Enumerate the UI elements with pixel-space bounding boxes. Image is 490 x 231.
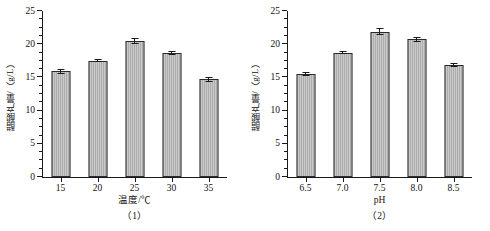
y-axis-tick-label: 10: [271, 106, 281, 116]
y-axis-tick: [282, 176, 287, 177]
x-axis-tick-label: 15: [56, 184, 66, 194]
y-axis-tick-label: 5: [275, 139, 280, 149]
bar: [444, 65, 463, 177]
x-axis-tick: [172, 178, 173, 182]
y-axis-minor-tick: [39, 101, 42, 102]
panel-caption-1: （1）: [42, 212, 227, 222]
bar: [125, 41, 144, 177]
y-axis-tick: [37, 143, 42, 144]
y-axis-tick-label: 0: [30, 172, 35, 182]
y-axis-minor-tick: [284, 126, 287, 127]
y-axis-minor-tick: [39, 159, 42, 160]
x-axis-tick: [135, 178, 136, 182]
y-axis-title-panel-1: 醋酸产量/（g/L）: [3, 11, 17, 178]
y-axis-minor-tick: [39, 52, 42, 53]
plot-area-panel-1: 05101520251520253035: [42, 11, 227, 178]
y-axis-tick: [282, 43, 287, 44]
y-axis-minor-tick: [284, 18, 287, 19]
y-axis-minor-tick: [39, 93, 42, 94]
error-bar-cap-bottom: [131, 43, 138, 44]
error-bar-cap-bottom: [57, 73, 64, 74]
chart-panel-1: 醋酸产量/（g/L） 05101520251520253035 温度/℃ （1）: [0, 0, 245, 231]
error-bar-cap-top: [413, 37, 420, 38]
chart-panel-2: 醋酸产量/（g/L） 05101520256.57.07.58.08.5 pH …: [245, 0, 490, 231]
error-bar-cap-top: [168, 51, 175, 52]
error-bar-cap-top: [339, 51, 346, 52]
y-axis-minor-tick: [284, 35, 287, 36]
x-axis-tick: [61, 178, 62, 182]
y-axis-minor-tick: [284, 27, 287, 28]
x-axis-title-panel-2: pH: [287, 196, 472, 206]
x-axis-tick: [343, 178, 344, 182]
error-bar: [57, 69, 64, 74]
error-bar-cap-top: [57, 69, 64, 70]
bar: [296, 74, 315, 177]
x-axis-tick: [306, 178, 307, 182]
y-axis-tick-label: 20: [26, 39, 36, 49]
y-axis-tick-label: 25: [271, 6, 281, 16]
x-axis-tick-label: 35: [204, 184, 214, 194]
error-bar: [339, 51, 346, 54]
error-bar: [205, 77, 212, 82]
y-axis-title-panel-2: 醋酸产量/（g/L）: [248, 11, 262, 178]
error-bar-cap-bottom: [168, 54, 175, 55]
y-axis-minor-tick: [284, 93, 287, 94]
error-bar-cap-top: [205, 77, 212, 78]
y-axis-minor-tick: [39, 168, 42, 169]
x-axis-tick: [454, 178, 455, 182]
y-axis-minor-tick: [39, 60, 42, 61]
y-axis-minor-tick: [39, 118, 42, 119]
y-axis-minor-tick: [39, 35, 42, 36]
y-axis-minor-tick: [284, 101, 287, 102]
bar: [199, 79, 218, 177]
bar: [51, 71, 70, 177]
x-axis-tick-label: 8.5: [448, 184, 460, 194]
x-axis-tick-label: 25: [130, 184, 140, 194]
x-axis-title-panel-1: 温度/℃: [42, 196, 227, 206]
error-bar-cap-top: [302, 72, 309, 73]
panel-caption-2: （2）: [287, 212, 472, 222]
bar: [407, 39, 426, 177]
error-bar-cap-top: [94, 59, 101, 60]
x-axis-tick: [417, 178, 418, 182]
figure-two-panel-bar-charts: 醋酸产量/（g/L） 05101520251520253035 温度/℃ （1）…: [0, 0, 490, 231]
error-bar: [302, 72, 309, 77]
error-bar-cap-top: [131, 38, 138, 39]
y-axis-tick-label: 5: [30, 139, 35, 149]
error-bar: [413, 37, 420, 42]
bar: [370, 32, 389, 177]
y-axis-tick: [282, 76, 287, 77]
y-axis-tick: [37, 76, 42, 77]
y-axis-minor-tick: [39, 68, 42, 69]
x-axis-tick-label: 8.0: [411, 184, 423, 194]
x-axis-tick: [209, 178, 210, 182]
y-axis-tick-label: 15: [271, 73, 281, 83]
x-axis-tick: [98, 178, 99, 182]
error-bar: [94, 59, 101, 62]
error-bar-cap-bottom: [205, 81, 212, 82]
error-bar-cap-bottom: [376, 34, 383, 35]
y-axis-tick-label: 25: [26, 6, 36, 16]
y-axis-minor-tick: [284, 151, 287, 152]
plot-area-panel-2: 05101520256.57.07.58.08.5: [287, 11, 472, 178]
error-bar: [131, 38, 138, 44]
y-axis-tick: [37, 110, 42, 111]
y-axis-tick: [37, 176, 42, 177]
bar: [162, 53, 181, 178]
y-axis-minor-tick: [39, 151, 42, 152]
error-bar-cap-bottom: [94, 61, 101, 62]
y-axis-tick-label: 0: [275, 172, 280, 182]
bar: [88, 61, 107, 177]
error-bar: [168, 51, 175, 55]
y-axis-minor-tick: [39, 135, 42, 136]
x-axis-tick-label: 7.5: [374, 184, 386, 194]
error-bar: [450, 63, 457, 67]
x-axis-tick-label: 30: [167, 184, 177, 194]
y-axis-tick: [37, 10, 42, 11]
y-axis-minor-tick: [284, 135, 287, 136]
error-bar-cap-bottom: [450, 66, 457, 67]
y-axis-minor-tick: [39, 18, 42, 19]
y-axis-tick-label: 20: [271, 39, 281, 49]
y-axis-minor-tick: [284, 168, 287, 169]
y-axis-tick-label: 10: [26, 106, 36, 116]
